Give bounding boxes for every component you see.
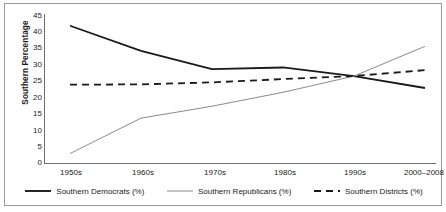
legend-item-southern-republicans: Southern Republicans (%) [167,187,291,196]
dashed-black-line-icon [314,187,340,195]
legend-item-southern-districts: Southern Districts (%) [314,187,423,196]
legend-label-southern-districts: Southern Districts (%) [345,187,423,196]
solid-thick-black-line-icon [25,187,51,195]
series-line-1 [70,46,425,153]
legend-label-southern-republicans: Southern Republicans (%) [198,187,291,196]
plot-area [0,0,446,212]
series-line-2 [70,70,425,85]
series-layer [70,26,425,154]
series-line-0 [70,26,425,88]
chart-figure: Southern Percentage 45 40 35 30 25 20 15… [0,0,446,212]
solid-thin-gray-line-icon [167,187,193,195]
chart-legend: Southern Democrats (%) Southern Republic… [14,182,434,200]
legend-item-southern-democrats: Southern Democrats (%) [25,187,144,196]
legend-label-southern-democrats: Southern Democrats (%) [56,187,144,196]
